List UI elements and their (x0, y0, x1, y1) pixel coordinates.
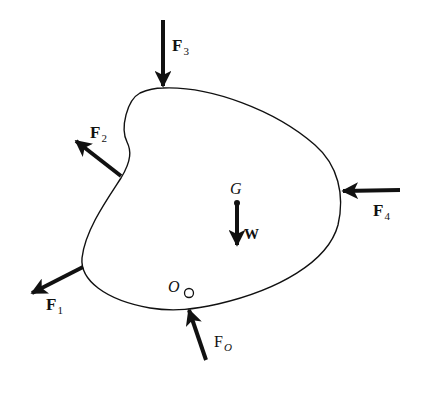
label-f4: F4 (373, 202, 390, 222)
force-fo-arrow (189, 310, 206, 360)
label-f2-sub: 2 (101, 132, 107, 144)
label-g: G (230, 181, 242, 197)
label-fo-main: F (214, 333, 223, 350)
label-f3: F3 (172, 37, 189, 57)
label-fo-sub: O (224, 341, 232, 353)
label-w: W (244, 227, 259, 242)
label-f1: F1 (46, 296, 63, 316)
label-o: O (168, 279, 180, 295)
label-f2: F2 (90, 124, 107, 144)
label-f1-main: F (46, 295, 56, 314)
label-f4-main: F (373, 201, 383, 220)
label-f4-sub: 4 (384, 210, 390, 222)
force-f1-arrow (32, 267, 83, 293)
label-f2-main: F (90, 123, 100, 142)
body-outline (82, 88, 341, 310)
pivot-point-o (185, 289, 194, 298)
label-f1-sub: 1 (57, 304, 63, 316)
label-f3-sub: 3 (183, 45, 189, 57)
force-f2-arrow (76, 141, 121, 176)
force-f4-arrow (343, 190, 400, 191)
label-fo: FO (214, 334, 232, 353)
label-f3-main: F (172, 36, 182, 55)
